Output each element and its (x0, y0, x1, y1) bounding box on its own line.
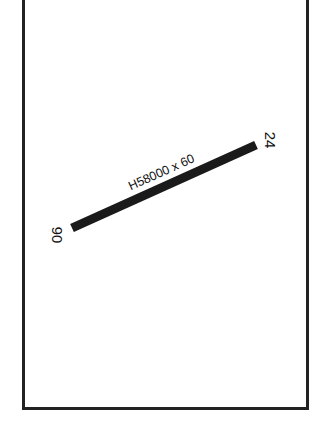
runway-diagram: H58000 x 60 06 24 (0, 0, 319, 422)
runway (72, 145, 256, 228)
runway-end-24-label: 24 (262, 132, 279, 149)
runway-end-06-label: 06 (48, 227, 65, 244)
